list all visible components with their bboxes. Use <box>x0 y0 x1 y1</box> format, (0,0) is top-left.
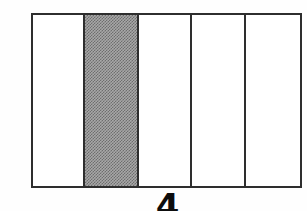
column-1 <box>33 15 85 186</box>
figure-caption-numeral: 4 <box>0 192 307 211</box>
diagram-box <box>31 13 302 188</box>
caption-numeral-text: 4 <box>156 192 180 211</box>
column-2-shaded <box>85 15 139 186</box>
column-4 <box>192 15 246 186</box>
column-5 <box>246 15 300 186</box>
column-3 <box>139 15 191 186</box>
figure-canvas: 4 <box>0 0 307 211</box>
